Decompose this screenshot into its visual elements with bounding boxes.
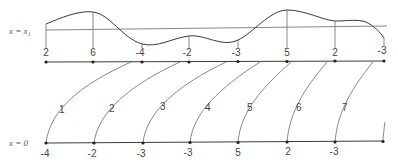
bottom-point bbox=[141, 141, 144, 144]
curve-label: 1 bbox=[59, 104, 65, 115]
top-point bbox=[187, 60, 190, 63]
characteristics-diagram: x = x₁ x = 0 2 6 -4 -2 -3 5 2 -3 bbox=[0, 0, 398, 167]
bottom-axis-values: -4 -2 -3 -3 5 2 -3 bbox=[41, 146, 339, 159]
bottom-point bbox=[381, 140, 384, 143]
bottom-value: 5 bbox=[235, 147, 241, 158]
bottom-value: -3 bbox=[137, 148, 146, 159]
bottom-point bbox=[92, 141, 95, 144]
top-point bbox=[333, 59, 336, 62]
top-point bbox=[285, 60, 288, 63]
top-value: -3 bbox=[378, 45, 387, 56]
bottom-value: -2 bbox=[88, 148, 97, 159]
top-axis-label: x = x₁ bbox=[8, 26, 31, 36]
reference-line bbox=[46, 26, 387, 30]
bottom-point bbox=[44, 141, 47, 144]
bottom-value: 2 bbox=[285, 146, 291, 157]
characteristic-curve-7 bbox=[335, 62, 373, 143]
top-axis-values: 2 6 -4 -2 -3 5 2 -3 bbox=[43, 45, 387, 58]
characteristic-curve-partial bbox=[383, 122, 385, 142]
top-value: -2 bbox=[183, 47, 192, 58]
characteristic-labels: 1 2 3 4 5 6 7 bbox=[59, 101, 348, 115]
top-point bbox=[91, 60, 94, 63]
bottom-value: -4 bbox=[41, 148, 50, 159]
top-point bbox=[236, 60, 239, 63]
top-value: 5 bbox=[284, 47, 290, 58]
waveform-curve bbox=[46, 10, 384, 45]
bottom-point bbox=[188, 141, 191, 144]
signal-profile bbox=[46, 10, 387, 48]
top-value: 2 bbox=[43, 47, 49, 58]
curve-label: 3 bbox=[160, 101, 166, 112]
bottom-value: -3 bbox=[184, 147, 193, 158]
top-value: 6 bbox=[90, 47, 96, 58]
top-value: -4 bbox=[136, 47, 145, 58]
characteristic-curve-6 bbox=[287, 62, 327, 143]
curve-label: 7 bbox=[342, 102, 348, 113]
bottom-value: -3 bbox=[330, 146, 339, 157]
curve-label: 6 bbox=[296, 102, 302, 113]
top-value: -3 bbox=[232, 47, 241, 58]
curve-label: 5 bbox=[247, 102, 253, 113]
bottom-axis-label: x = 0 bbox=[8, 138, 29, 148]
characteristic-curve-1 bbox=[46, 62, 131, 143]
characteristic-curve-5 bbox=[238, 62, 291, 143]
bottom-point bbox=[236, 141, 239, 144]
bottom-point bbox=[285, 140, 288, 143]
curve-label: 2 bbox=[109, 103, 115, 114]
bottom-point bbox=[333, 140, 336, 143]
bottom-axis bbox=[46, 141, 384, 143]
top-value: 2 bbox=[332, 47, 338, 58]
curve-label: 4 bbox=[205, 102, 211, 113]
top-point bbox=[44, 60, 47, 63]
characteristic-curves bbox=[46, 62, 385, 143]
top-point bbox=[382, 59, 385, 62]
top-point bbox=[140, 60, 143, 63]
